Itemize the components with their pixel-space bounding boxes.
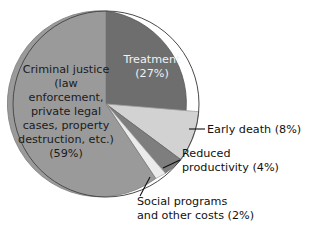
- criminal-justice-label-line3: enforcement,: [29, 91, 104, 104]
- pie-chart: Treatment (27%) Criminal justice (law en…: [0, 0, 311, 233]
- pie-chart-canvas: Treatment (27%) Criminal justice (law en…: [0, 0, 311, 233]
- callout-early-death: Early death (8%): [189, 123, 301, 136]
- reduced-productivity-label-line1: Reduced: [182, 147, 230, 160]
- criminal-justice-label-line5: cases, property: [23, 119, 110, 132]
- social-programs-label-line1: Social programs: [137, 195, 227, 208]
- reduced-productivity-label-line2: productivity (4%): [182, 161, 279, 174]
- criminal-justice-label-line4: private legal: [31, 105, 101, 118]
- criminal-justice-label-line1: Criminal justice: [23, 63, 110, 76]
- early-death-label: Early death (8%): [207, 123, 301, 136]
- criminal-justice-label-line7: (59%): [49, 147, 83, 160]
- criminal-justice-label-line6: destruction, etc.): [18, 133, 114, 146]
- criminal-justice-label-line2: (law: [54, 77, 77, 90]
- social-programs-label-line2: and other costs (2%): [137, 209, 254, 222]
- treatment-label-line2: (27%): [135, 67, 169, 80]
- treatment-label-line1: Treatment: [123, 53, 182, 66]
